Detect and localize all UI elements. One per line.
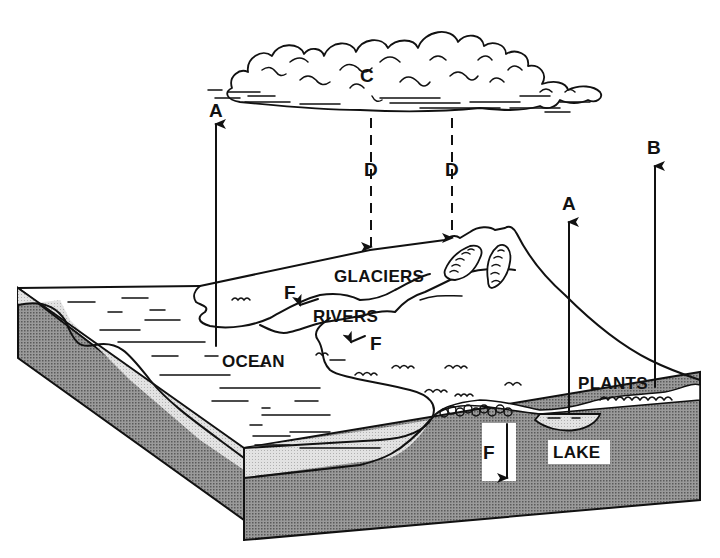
label-evaporation-lake-a: A: [562, 193, 576, 214]
water-cycle-diagram: C A D D A B F F F GLACIERS RIVERS OCEAN …: [0, 0, 720, 558]
left-side-face: [18, 288, 244, 520]
label-cloud-c: C: [360, 65, 374, 86]
label-precipitation-d2: D: [445, 159, 459, 180]
label-transpiration-b: B: [647, 137, 661, 158]
label-precipitation-d1: D: [364, 159, 378, 180]
label-ocean: OCEAN: [222, 352, 285, 371]
arrow-runoff-2: [351, 336, 365, 342]
cloud: [208, 32, 601, 112]
label-rivers: RIVERS: [313, 307, 378, 326]
label-lake: LAKE: [553, 443, 600, 462]
label-plants: PLANTS: [578, 374, 648, 393]
label-infiltration-f: F: [483, 442, 495, 463]
label-glaciers: GLACIERS: [334, 267, 424, 286]
label-evaporation-ocean-a: A: [209, 100, 223, 121]
label-runoff-f2: F: [370, 333, 382, 354]
label-runoff-f1: F: [284, 282, 296, 303]
